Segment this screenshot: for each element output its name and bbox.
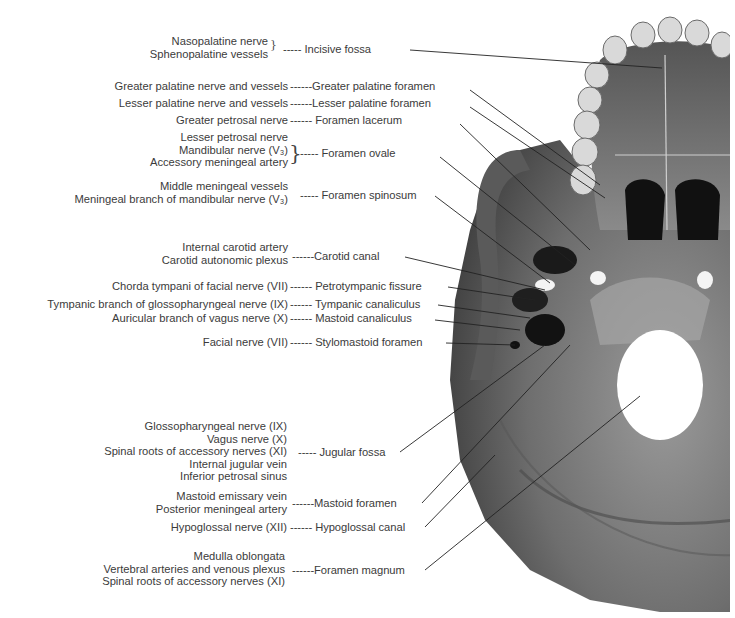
contents-carotid: Internal carotid artery Carotid autonomi… bbox=[162, 241, 288, 266]
contents-lacerum: Greater petrosal nerve bbox=[176, 114, 288, 127]
contents-jugular: Glossopharyngeal nerve (IX) Vagus nerve … bbox=[104, 420, 287, 483]
label-foramen-lacerum: ------ Foramen lacerum bbox=[290, 114, 402, 127]
label-foramen-magnum: ------Foramen magnum bbox=[292, 564, 405, 577]
contents-tympanic-canaliculus: Tympanic branch of glossopharyngeal nerv… bbox=[47, 298, 288, 311]
label-greater-palatine-foramen: ------Greater palatine foramen bbox=[290, 80, 435, 93]
contents-mastoid-foramen: Mastoid emissary vein Posterior meningea… bbox=[156, 490, 287, 515]
brace: } bbox=[270, 38, 277, 51]
content-label: Sphenopalatine vessels bbox=[150, 48, 268, 61]
label-petrotympanic-fissure: ------ Petrotympanic fissure bbox=[290, 280, 422, 293]
contents-ovale: Lesser petrosal nerve Mandibular nerve (… bbox=[150, 131, 288, 169]
contents-stylomastoid: Facial nerve (VII) bbox=[203, 336, 288, 349]
label-mastoid-foramen: ------Mastoid foramen bbox=[292, 497, 397, 510]
label-carotid-canal: ------Carotid canal bbox=[292, 250, 379, 263]
anatomy-figure: Nasopalatine nerve Sphenopalatine vessel… bbox=[0, 0, 735, 618]
contents-greater-palatine: Greater palatine nerve and vessels bbox=[114, 80, 288, 93]
label-foramen-ovale: ----- Foramen ovale bbox=[300, 147, 395, 160]
label-mastoid-canaliculus: ------ Mastoid canaliculus bbox=[290, 312, 412, 325]
contents-hypoglossal: Hypoglossal nerve (XII) bbox=[171, 521, 287, 534]
label-stylomastoid-foramen: ------ Stylomastoid foramen bbox=[290, 336, 422, 349]
label-jugular-fossa: ----- Jugular fossa bbox=[298, 446, 385, 459]
choanae bbox=[625, 179, 665, 240]
label-tympanic-canaliculus: ------ Tympanic canaliculus bbox=[290, 298, 420, 311]
contents-foramen-magnum: Medulla oblongata Vertebral arteries and… bbox=[102, 550, 285, 588]
contents-petrotympanic: Chorda tympani of facial nerve (VII) bbox=[112, 280, 288, 293]
label-lesser-palatine-foramen: ------Lesser palatine foramen bbox=[290, 97, 431, 110]
contents-incisive: Nasopalatine nerve Sphenopalatine vessel… bbox=[150, 35, 268, 60]
contents-lesser-palatine: Lesser palatine nerve and vessels bbox=[119, 97, 288, 110]
label-hypoglossal-canal: ------ Hypoglossal canal bbox=[290, 521, 405, 534]
contents-mastoid-canaliculus: Auricular branch of vagus nerve (X) bbox=[112, 312, 288, 325]
content-label: Nasopalatine nerve bbox=[150, 35, 268, 48]
label-foramen-spinosum: ----- Foramen spinosum bbox=[300, 189, 416, 202]
contents-spinosum: Middle meningeal vessels Meningeal branc… bbox=[74, 180, 288, 205]
foramen-magnum-hole bbox=[617, 330, 703, 440]
label-incisive-fossa: ----- Incisive fossa bbox=[283, 43, 371, 56]
